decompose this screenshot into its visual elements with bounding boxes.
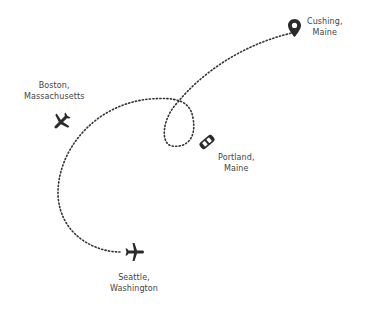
car-icon [197, 132, 217, 152]
route-map [0, 0, 366, 312]
location-label-seattle: Seattle, Washington [110, 272, 158, 294]
airplane-icon [121, 240, 147, 264]
airplane-icon [50, 109, 74, 133]
location-label-boston: Boston, Massachusetts [24, 80, 84, 102]
location-label-portland: Portland, Maine [218, 152, 255, 174]
map-pin-icon [288, 19, 301, 37]
location-label-cushing: Cushing, Maine [307, 16, 343, 38]
dotted-route-path [58, 33, 292, 252]
